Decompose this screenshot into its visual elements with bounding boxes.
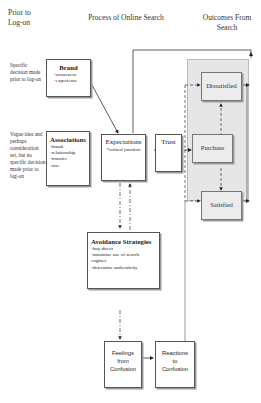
brand-title: Brand — [47, 63, 90, 72]
satisfied-box: Satisfied — [201, 191, 242, 220]
avoidance-title: Avoidance Strategies — [88, 237, 159, 246]
expectations-note: *critical junction — [102, 147, 145, 153]
trust-box: Trust — [155, 134, 182, 172]
avoidance-item: -minimize use of search engines — [88, 252, 149, 264]
reactions-to-confusion-box: Reactions to Confusion — [155, 341, 195, 388]
associations-item: -size — [47, 163, 89, 169]
dissatisfied-box: Dissatisfied — [201, 72, 242, 101]
avoidance-item: -determine authenticity — [88, 265, 159, 271]
associations-box: Associations -brand -relationship -trans… — [46, 131, 90, 186]
purchase-box: Purchase — [192, 134, 233, 163]
reactions-title: Reactions to Confusion — [156, 349, 194, 373]
brand-box: Brand -awareness -experience — [46, 59, 91, 97]
expectations-title: Expectations — [102, 138, 145, 147]
expectations-box: Expectations *critical junction — [101, 134, 146, 181]
associations-title: Associations — [47, 135, 89, 144]
feelings-title: Feelings from Confusion — [105, 349, 141, 373]
feelings-from-confusion-box: Feelings from Confusion — [104, 341, 142, 388]
trust-title: Trust — [156, 138, 181, 147]
avoidance-strategies-box: Avoidance Strategies -buy direct -minimi… — [87, 232, 160, 289]
brand-item: -experience — [47, 78, 90, 84]
